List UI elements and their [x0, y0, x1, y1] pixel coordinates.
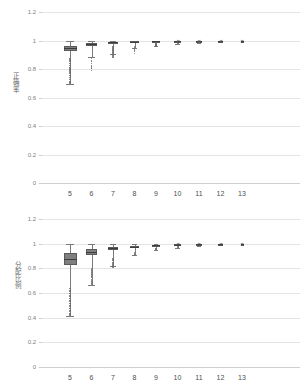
- outlier-point: [69, 305, 71, 307]
- y-tick-mark: [39, 126, 42, 127]
- plot-area-top: 1.210.80.60.40.205678910111213✕✕✕✕: [42, 12, 300, 204]
- median-line: [108, 248, 119, 249]
- y-tick-label: 1.2: [8, 9, 36, 15]
- collapsed-marker-icon: ✕: [176, 38, 180, 43]
- whisker-lower: [92, 46, 93, 57]
- y-tick-label: 1: [8, 38, 36, 44]
- x-tick-label-9: 9: [154, 374, 158, 381]
- median-line: [86, 44, 98, 45]
- y-tick-mark: [39, 268, 42, 269]
- cap-upper: [66, 41, 74, 42]
- y-tick-mark: [39, 12, 42, 13]
- gridline: [42, 126, 300, 127]
- cap-lower: [154, 250, 159, 251]
- gridline: [42, 318, 300, 319]
- outlier-point: [69, 60, 71, 62]
- collapsed-marker-icon: ✕: [219, 38, 223, 43]
- y-tick-mark: [39, 244, 42, 245]
- outlier-point: [69, 75, 71, 77]
- cap-lower: [66, 84, 74, 85]
- plot-area-bottom: 1.210.80.60.40.205678910111213✕✕✕✕: [42, 219, 300, 387]
- gridline: [42, 342, 300, 343]
- y-tick-mark: [39, 367, 42, 368]
- x-tick-label-11: 11: [195, 190, 202, 197]
- median-line: [64, 48, 77, 49]
- x-tick-label-5: 5: [68, 190, 72, 197]
- x-tick-label-6: 6: [90, 374, 94, 381]
- y-tick-label: 0.2: [8, 339, 36, 345]
- x-tick-label-11: 11: [195, 374, 202, 381]
- gridline: [42, 98, 300, 99]
- x-tick-label-7: 7: [111, 374, 115, 381]
- outlier-point: [69, 300, 71, 302]
- collapsed-marker-icon: ✕: [240, 241, 244, 246]
- x-tick-label-10: 10: [174, 190, 182, 197]
- y-tick-label: 0.8: [8, 265, 36, 271]
- y-tick-mark: [39, 41, 42, 42]
- x-tick-label-10: 10: [174, 374, 182, 381]
- outlier-point: [155, 45, 157, 47]
- outlier-point: [134, 53, 136, 55]
- cap-upper: [110, 244, 116, 245]
- x-tick-label-12: 12: [217, 190, 225, 197]
- gridline: [42, 219, 300, 220]
- x-tick-label-5: 5: [68, 374, 72, 381]
- y-tick-label: 0.8: [8, 66, 36, 72]
- cap-upper: [88, 41, 95, 42]
- y-tick-label: 1: [8, 241, 36, 247]
- median-line: [130, 247, 139, 248]
- chart-allocation-ratio: 分配比例 1.210.80.60.40.205678910111213✕✕✕✕: [0, 197, 306, 387]
- x-axis-line: [42, 367, 300, 368]
- y-tick-label: 0: [8, 364, 36, 370]
- x-tick-label-9: 9: [154, 190, 158, 197]
- gridline: [42, 268, 300, 269]
- outlier-point: [69, 65, 71, 67]
- outlier-point: [69, 295, 71, 297]
- gridline: [42, 155, 300, 156]
- outlier-point: [69, 310, 71, 312]
- cap-upper: [88, 244, 95, 245]
- y-tick-mark: [39, 183, 42, 184]
- outlier-point: [91, 65, 93, 67]
- collapsed-marker-icon: ✕: [197, 38, 201, 43]
- median-line: [130, 42, 139, 43]
- outlier-point: [69, 63, 71, 65]
- median-line: [108, 42, 119, 43]
- cap-lower: [154, 46, 159, 47]
- chart-accuracy: 正确率 1.210.80.60.40.205678910111213✕✕✕✕: [0, 0, 306, 197]
- median-line: [86, 252, 98, 253]
- outlier-point: [69, 72, 71, 74]
- median-line: [64, 259, 77, 260]
- x-axis-line: [42, 183, 300, 184]
- y-tick-mark: [39, 98, 42, 99]
- cap-upper: [66, 244, 74, 245]
- cap-upper: [132, 244, 138, 245]
- gridline: [42, 12, 300, 13]
- y-tick-mark: [39, 342, 42, 343]
- y-axis-title-top: 正确率: [11, 72, 18, 93]
- cap-lower: [175, 248, 179, 249]
- y-tick-mark: [39, 155, 42, 156]
- x-tick-label-6: 6: [90, 190, 94, 197]
- outlier-point: [112, 266, 114, 268]
- x-tick-label-12: 12: [217, 374, 225, 381]
- y-tick-mark: [39, 293, 42, 294]
- x-tick-label-8: 8: [133, 374, 137, 381]
- y-tick-mark: [39, 318, 42, 319]
- whisker-upper: [70, 244, 71, 253]
- collapsed-marker-icon: ✕: [240, 38, 244, 43]
- x-tick-label-7: 7: [111, 190, 115, 197]
- y-tick-label: 0.6: [8, 290, 36, 296]
- y-tick-mark: [39, 219, 42, 220]
- x-tick-label-8: 8: [133, 190, 137, 197]
- y-tick-label: 0.4: [8, 123, 36, 129]
- cap-lower: [175, 44, 179, 45]
- boxplot-figure: 正确率 1.210.80.60.40.205678910111213✕✕✕✕ 分…: [0, 0, 306, 387]
- outlier-point: [69, 314, 71, 316]
- gridline: [42, 41, 300, 42]
- outlier-point: [69, 308, 71, 310]
- gridline: [42, 244, 300, 245]
- collapsed-marker-icon: ✕: [176, 241, 180, 246]
- collapsed-marker-icon: ✕: [219, 241, 223, 246]
- y-tick-label: 0: [8, 180, 36, 186]
